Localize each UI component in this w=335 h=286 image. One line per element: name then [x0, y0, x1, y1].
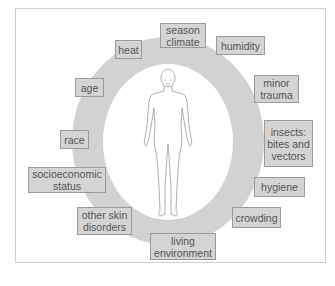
factor-label-line: climate [166, 36, 199, 48]
factor-label-line: vectors [272, 150, 306, 162]
factor-label-line: status [53, 180, 81, 192]
factor-other-skin-disorders: other skin disorders [77, 207, 132, 235]
factor-living-environment: living environment [150, 233, 216, 260]
factor-label-line: bites and [267, 138, 310, 150]
factor-hygiene: hygiene [254, 177, 305, 197]
factor-label-line: season [166, 24, 200, 36]
factor-label-line: humidity [221, 40, 260, 52]
factor-insects: insects: bites and vectors [264, 120, 313, 167]
factor-label-line: trauma [260, 89, 293, 101]
factor-race: race [60, 130, 89, 149]
factor-heat: heat [115, 40, 142, 59]
factor-socioeconomic-status: socioeconomic status [28, 167, 106, 193]
factor-label-line: race [64, 134, 84, 146]
factor-label-line: disorders [83, 221, 126, 233]
factor-label-line: crowding [235, 212, 277, 224]
factor-label-line: living [171, 235, 195, 247]
factor-label-line: insects: [271, 126, 307, 138]
factor-humidity: humidity [216, 36, 265, 55]
factor-season-climate: season climate [160, 23, 206, 48]
factor-label-line: heat [118, 44, 138, 56]
factor-minor-trauma: minor trauma [254, 75, 299, 103]
factor-label-line: socioeconomic [32, 168, 101, 180]
factor-label-line: age [81, 82, 99, 94]
factor-crowding: crowding [232, 207, 281, 228]
factor-label-line: other skin [82, 209, 128, 221]
factor-label-line: environment [154, 247, 212, 259]
factor-label-line: minor [263, 77, 289, 89]
factor-age: age [75, 78, 104, 97]
human-body-figure-icon [133, 66, 203, 220]
factor-label-line: hygiene [261, 181, 298, 193]
